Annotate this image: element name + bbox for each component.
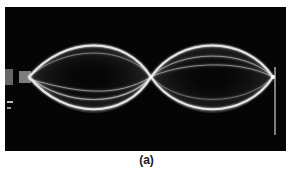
- standing-wave-photo: [5, 7, 286, 151]
- driver-apparatus: [5, 69, 31, 109]
- figure-caption: (a): [0, 153, 293, 167]
- node-point: [149, 75, 152, 78]
- right-loop-envelope: [151, 43, 273, 113]
- left-loop-envelope: [29, 43, 151, 113]
- standing-wave-graphic: [5, 7, 286, 151]
- end-point: [271, 75, 275, 79]
